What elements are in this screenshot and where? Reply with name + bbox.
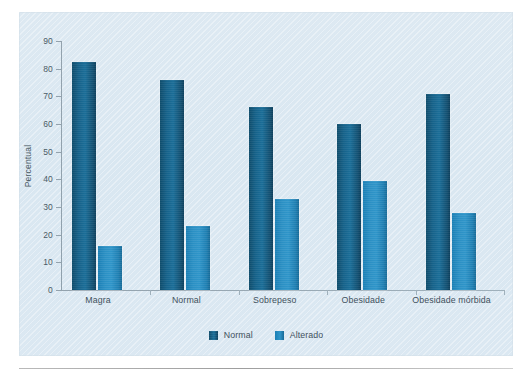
legend-swatch-normal-icon [209, 331, 218, 340]
y-axis-tick [56, 207, 61, 208]
y-axis-tick [56, 290, 61, 291]
x-axis-label: Magra [85, 295, 110, 305]
bar-group [62, 41, 150, 290]
y-axis-title: Percentual [23, 144, 33, 187]
bar-alterado [452, 213, 476, 290]
x-axis-label: Normal [172, 295, 201, 305]
y-axis-tick [56, 262, 61, 263]
bar-group [239, 41, 327, 290]
y-axis-tick [56, 69, 61, 70]
bar-alterado [363, 181, 387, 290]
bar-alterado [186, 226, 210, 290]
chart-legend: NormalAlterado [19, 330, 513, 340]
y-axis-tick-label: 60 [43, 119, 53, 129]
figure: Percentual 0102030405060708090 MagraNorm… [0, 0, 531, 376]
legend-label: Alterado [290, 330, 324, 340]
y-axis-tick [56, 41, 61, 42]
footer-rule [19, 368, 513, 369]
x-axis-tick [150, 290, 151, 295]
y-axis-tick [56, 96, 61, 97]
y-axis-tick-label: 0 [48, 285, 53, 295]
bar-group [150, 41, 238, 290]
bar-normal [337, 124, 361, 290]
bar-normal [160, 80, 184, 290]
bar-normal [426, 94, 450, 290]
y-axis-tick [56, 235, 61, 236]
y-axis-tick-label: 90 [43, 36, 53, 46]
y-axis-tick-label: 30 [43, 202, 53, 212]
bar-alterado [98, 246, 122, 290]
y-axis-tick [56, 152, 61, 153]
y-axis-tick-label: 20 [43, 230, 53, 240]
x-axis-line [61, 290, 504, 291]
y-axis-tick-label: 50 [43, 147, 53, 157]
bar-group [327, 41, 415, 290]
y-axis-tick [56, 179, 61, 180]
y-axis-tick [56, 124, 61, 125]
bar-group [416, 41, 504, 290]
x-axis-tick [239, 290, 240, 295]
y-axis-tick-label: 10 [43, 257, 53, 267]
legend-item: Alterado [275, 330, 324, 340]
y-axis-tick-label: 80 [43, 64, 53, 74]
bar-normal [72, 62, 96, 290]
plot-area: Percentual 0102030405060708090 MagraNorm… [62, 41, 504, 290]
x-axis-label: Obesidade mórbida [412, 295, 490, 305]
x-axis-tick [327, 290, 328, 295]
bar-alterado [275, 199, 299, 290]
bar-normal [249, 107, 273, 290]
chart-panel: Percentual 0102030405060708090 MagraNorm… [19, 12, 513, 356]
legend-label: Normal [224, 330, 253, 340]
x-axis-label: Obesidade [341, 295, 384, 305]
y-axis-tick-label: 70 [43, 91, 53, 101]
y-axis-tick-label: 40 [43, 174, 53, 184]
legend-item: Normal [209, 330, 253, 340]
legend-swatch-alterado-icon [275, 331, 284, 340]
x-axis-tick [504, 290, 505, 295]
x-axis-label: Sobrepeso [253, 295, 296, 305]
